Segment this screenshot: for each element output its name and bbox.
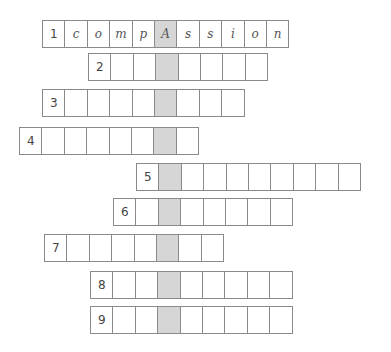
letter-cell[interactable]	[200, 53, 223, 81]
letter-cell[interactable]	[66, 234, 89, 262]
letter-cell[interactable]	[89, 234, 112, 262]
letter-cell[interactable]	[135, 271, 158, 299]
letter-cell[interactable]	[201, 234, 224, 262]
letter-cell[interactable]	[293, 163, 316, 191]
letter-cell[interactable]	[109, 89, 132, 117]
row-number-label: 8	[90, 271, 113, 299]
crossword-row-5: 5	[136, 163, 361, 191]
key-letter-cell[interactable]: A	[154, 20, 177, 48]
crossword-row-2: 2	[88, 53, 268, 81]
letter-cell[interactable]: c	[64, 20, 87, 48]
key-letter-cell[interactable]	[157, 306, 180, 334]
crossword-row-8: 8	[90, 271, 293, 299]
letter-cell[interactable]	[221, 89, 244, 117]
letter-cell[interactable]	[338, 163, 361, 191]
letter-cell[interactable]	[64, 127, 87, 155]
letter-cell[interactable]	[225, 198, 248, 226]
letter-cell[interactable]	[270, 163, 293, 191]
key-letter-cell[interactable]	[158, 198, 181, 226]
letter-cell[interactable]	[247, 306, 270, 334]
letter-cell[interactable]	[269, 306, 292, 334]
letter-cell[interactable]	[131, 127, 154, 155]
crossword-row-6: 6	[113, 198, 293, 226]
letter-cell[interactable]	[270, 198, 293, 226]
letter-cell[interactable]: n	[266, 20, 289, 48]
row-number-label: 4	[19, 127, 42, 155]
letter-cell[interactable]	[133, 53, 156, 81]
letter-cell[interactable]	[199, 89, 222, 117]
letter-cell[interactable]	[135, 198, 158, 226]
letter-cell[interactable]	[181, 163, 204, 191]
letter-cell[interactable]	[222, 53, 245, 81]
letter-cell[interactable]	[180, 271, 203, 299]
key-letter-cell[interactable]	[156, 234, 179, 262]
letter-cell[interactable]	[110, 53, 133, 81]
letter-cell[interactable]	[202, 271, 225, 299]
letter-cell[interactable]	[176, 89, 199, 117]
letter-cell[interactable]	[86, 127, 109, 155]
letter-cell[interactable]	[135, 306, 158, 334]
letter-cell[interactable]	[178, 234, 201, 262]
crossword-row-9: 9	[90, 306, 293, 334]
crossword-row-4: 4	[19, 127, 199, 155]
letter-cell[interactable]	[112, 306, 135, 334]
letter-cell[interactable]	[247, 198, 270, 226]
letter-cell[interactable]	[180, 306, 203, 334]
row-number-label: 5	[136, 163, 159, 191]
key-letter-cell[interactable]	[157, 271, 180, 299]
key-letter-cell[interactable]	[158, 163, 181, 191]
letter-cell[interactable]	[315, 163, 338, 191]
letter-cell[interactable]	[41, 127, 64, 155]
letter-cell[interactable]	[247, 271, 270, 299]
crossword-row-3: 3	[42, 89, 245, 117]
crossword-row-1: 1compAssion	[42, 20, 289, 48]
letter-cell[interactable]	[203, 198, 226, 226]
row-number-label: 1	[42, 20, 65, 48]
letter-cell[interactable]	[64, 89, 87, 117]
letter-cell[interactable]	[176, 127, 199, 155]
letter-cell[interactable]	[203, 163, 226, 191]
key-letter-cell[interactable]	[154, 89, 177, 117]
letter-cell[interactable]	[224, 271, 247, 299]
row-number-label: 3	[42, 89, 65, 117]
key-letter-cell[interactable]	[155, 53, 178, 81]
letter-cell[interactable]	[269, 271, 292, 299]
row-number-label: 2	[88, 53, 111, 81]
letter-cell[interactable]: o	[87, 20, 110, 48]
letter-cell[interactable]: m	[109, 20, 132, 48]
letter-cell[interactable]	[87, 89, 110, 117]
letter-cell[interactable]: i	[221, 20, 244, 48]
letter-cell[interactable]	[202, 306, 225, 334]
letter-cell[interactable]	[248, 163, 271, 191]
letter-cell[interactable]: s	[176, 20, 199, 48]
row-number-label: 6	[113, 198, 136, 226]
letter-cell[interactable]: s	[199, 20, 222, 48]
row-number-label: 9	[90, 306, 113, 334]
letter-cell[interactable]: p	[132, 20, 155, 48]
letter-cell[interactable]: o	[244, 20, 267, 48]
letter-cell[interactable]	[245, 53, 268, 81]
key-letter-cell[interactable]	[153, 127, 176, 155]
letter-cell[interactable]	[178, 53, 201, 81]
crossword-row-7: 7	[44, 234, 224, 262]
letter-cell[interactable]	[112, 271, 135, 299]
row-number-label: 7	[44, 234, 67, 262]
letter-cell[interactable]	[180, 198, 203, 226]
letter-cell[interactable]	[226, 163, 249, 191]
letter-cell[interactable]	[111, 234, 134, 262]
letter-cell[interactable]	[134, 234, 157, 262]
letter-cell[interactable]	[132, 89, 155, 117]
letter-cell[interactable]	[109, 127, 132, 155]
letter-cell[interactable]	[224, 306, 247, 334]
